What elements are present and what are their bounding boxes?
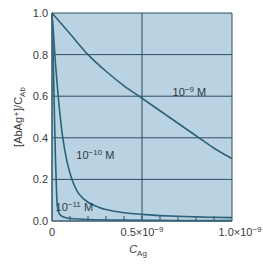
y-tick-label: 0.2	[33, 173, 48, 185]
y-tick-labels: 0.00.20.40.60.81.0	[33, 7, 48, 227]
chart: 0.00.20.40.60.81.0 00.5×10−91.0×10−9 10−…	[0, 0, 263, 271]
y-axis-label: [AbAg⁺]/CAb	[12, 87, 27, 147]
x-tick-label: 1.0×10−9	[218, 225, 262, 238]
x-tick-label: 0	[49, 226, 55, 238]
x-tick-label: 0.5×10−9	[120, 225, 164, 238]
y-tick-label: 0.8	[33, 49, 48, 61]
y-tick-label: 0.6	[33, 90, 48, 102]
x-axis-label: CAg	[129, 243, 147, 258]
y-tick-label: 1.0	[33, 7, 48, 19]
y-tick-label: 0.0	[33, 215, 48, 227]
x-tick-labels: 00.5×10−91.0×10−9	[49, 225, 262, 238]
y-tick-label: 0.4	[33, 132, 48, 144]
